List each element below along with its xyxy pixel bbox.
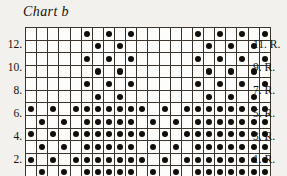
row-label-right: 3. R.	[253, 131, 275, 143]
row-label-right: 1. R.	[253, 154, 275, 166]
row-label-right: 11. R.	[253, 39, 280, 51]
row-label-right: 9. R.	[253, 62, 275, 74]
row-label-right: 5. R.	[253, 108, 275, 120]
right-row-labels: 11. R.9. R.7. R.5. R.3. R.1. R.	[0, 0, 287, 176]
row-label-right: 7. R.	[253, 85, 275, 97]
